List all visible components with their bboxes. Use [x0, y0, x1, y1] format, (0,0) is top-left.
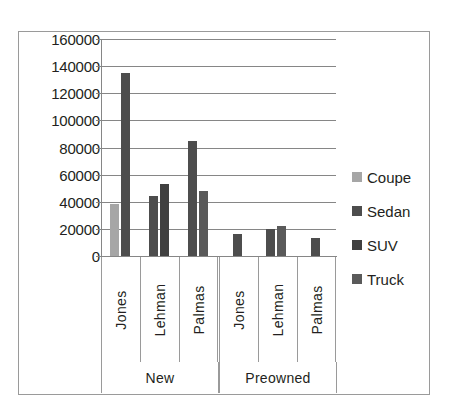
y-axis-tick [96, 175, 101, 176]
y-axis-tick-label: 80000 [20, 141, 100, 156]
bar [199, 191, 208, 256]
plot-area [101, 39, 336, 256]
y-axis-tick [96, 148, 101, 149]
legend-label: Truck [367, 272, 404, 287]
gridline [101, 175, 336, 176]
y-axis-tick [96, 202, 101, 203]
group-cell: Preowned [219, 362, 337, 393]
category-label: Palmas [310, 285, 324, 334]
bar-chart: 1600001400001200001000008000060000400002… [0, 0, 455, 411]
y-axis-tick [96, 93, 101, 94]
bar [233, 234, 242, 256]
group-label-band: NewPreowned [101, 362, 337, 393]
bar [188, 141, 197, 256]
category-cell: Lehman [258, 257, 297, 362]
legend-item: SUV [352, 228, 430, 262]
gridline [101, 202, 336, 203]
category-cell: Palmas [297, 257, 336, 362]
y-axis-tick-label: 140000 [20, 59, 100, 74]
category-label: Palmas [192, 285, 206, 334]
category-cell: Jones [101, 257, 140, 362]
category-label: Lehman [271, 283, 285, 336]
category-cell: Palmas [179, 257, 218, 362]
y-axis-tick [96, 39, 101, 40]
y-axis-tick-label: 160000 [20, 32, 100, 47]
gridline [101, 229, 336, 230]
y-axis-tick [96, 229, 101, 230]
y-axis-tick-label: 0 [20, 249, 100, 264]
y-axis-tick [96, 120, 101, 121]
y-axis-tick-label: 40000 [20, 195, 100, 210]
legend-label: Coupe [367, 170, 411, 185]
gridline [101, 93, 336, 94]
y-axis-tick [96, 66, 101, 67]
group-label: Preowned [245, 371, 310, 385]
legend-swatch-icon [352, 274, 362, 284]
category-label-band: JonesLehmanPalmasJonesLehmanPalmas [101, 257, 337, 362]
gridline [101, 39, 336, 40]
legend-label: Sedan [367, 204, 410, 219]
bar [277, 226, 286, 256]
y-axis-tick-label: 20000 [20, 222, 100, 237]
group-cell: New [101, 362, 219, 393]
category-cell: Jones [219, 257, 258, 362]
chart-legend: CoupeSedanSUVTruck [352, 160, 430, 296]
category-label: Jones [232, 290, 246, 329]
bar [121, 73, 130, 256]
gridline [101, 120, 336, 121]
legend-item: Sedan [352, 194, 430, 228]
category-label: Jones [114, 290, 128, 329]
legend-item: Truck [352, 262, 430, 296]
bar [266, 229, 275, 256]
y-axis-tick-labels: 1600001400001200001000008000060000400002… [20, 33, 100, 257]
legend-swatch-icon [352, 172, 362, 182]
y-axis-tick-label: 120000 [20, 86, 100, 101]
y-axis-tick-label: 60000 [20, 168, 100, 183]
group-label: New [146, 371, 175, 385]
bar [160, 184, 169, 256]
gridline [101, 66, 336, 67]
legend-swatch-icon [352, 206, 362, 216]
category-label: Lehman [153, 283, 167, 336]
bar [110, 204, 119, 256]
category-cell: Lehman [140, 257, 179, 362]
bar [149, 196, 158, 256]
legend-swatch-icon [352, 240, 362, 250]
bar [311, 238, 320, 256]
y-axis-tick-label: 100000 [20, 113, 100, 128]
legend-label: SUV [367, 238, 398, 253]
gridline [101, 148, 336, 149]
legend-item: Coupe [352, 160, 430, 194]
